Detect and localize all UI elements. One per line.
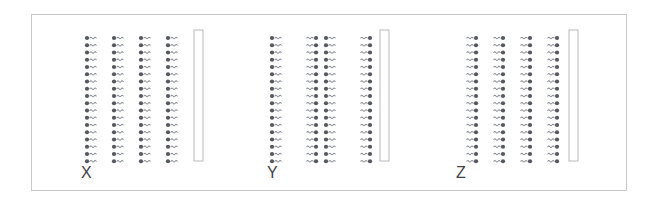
molecule-tail [275, 88, 281, 90]
molecule-head [85, 130, 89, 134]
molecule-tail [90, 37, 96, 39]
molecule-head [85, 94, 89, 98]
molecule-head [368, 50, 372, 54]
molecule-head [324, 130, 328, 134]
molecule-head [501, 65, 505, 69]
molecule-tail [117, 66, 123, 68]
molecule-tail [521, 74, 527, 76]
molecule-head [139, 43, 143, 47]
molecule-tail [548, 52, 554, 54]
molecule-head [85, 116, 89, 120]
molecule-tail [90, 124, 96, 126]
molecule-head [555, 65, 559, 69]
molecule-head [166, 152, 170, 156]
molecule-tail [329, 161, 335, 163]
molecule-head [528, 145, 532, 149]
molecule-head [166, 145, 170, 149]
molecule-tail [467, 139, 473, 141]
molecule-head [528, 130, 532, 134]
molecule-tail [361, 37, 367, 39]
molecule-head [474, 87, 478, 91]
molecule-head [324, 58, 328, 62]
molecule-tail [361, 95, 367, 97]
molecule-tail [329, 103, 335, 105]
molecule-tail [307, 52, 313, 54]
molecule-head [166, 43, 170, 47]
molecule-tail [494, 132, 500, 134]
molecule-head [314, 159, 318, 163]
molecule-head [555, 94, 559, 98]
molecule-tail [467, 124, 473, 126]
molecule-head [314, 72, 318, 76]
molecule-tail [275, 139, 281, 141]
molecule-tail [467, 103, 473, 105]
molecule-tail [307, 95, 313, 97]
molecule-tail [361, 81, 367, 83]
molecule-head [324, 94, 328, 98]
molecule-tail [275, 153, 281, 155]
molecule-head [528, 87, 532, 91]
molecule-tail [521, 132, 527, 134]
molecule-head [324, 101, 328, 105]
molecule-head [139, 65, 143, 69]
molecule-head [555, 130, 559, 134]
molecule-tail [329, 45, 335, 47]
molecule-head [555, 50, 559, 54]
molecule-tail [548, 66, 554, 68]
molecule-head [139, 79, 143, 83]
molecule-head [270, 108, 274, 112]
molecule-tail [467, 81, 473, 83]
molecule-tail [329, 59, 335, 61]
molecule-tail [171, 95, 177, 97]
molecule-tail [171, 146, 177, 148]
molecule-tail [275, 103, 281, 105]
molecule-head [501, 36, 505, 40]
molecule-head [474, 79, 478, 83]
molecule-tail [90, 81, 96, 83]
molecule-tail [521, 146, 527, 148]
molecule-head [166, 87, 170, 91]
molecule-tail [144, 95, 150, 97]
molecule-tail [117, 124, 123, 126]
molecule-head [555, 123, 559, 127]
molecule-tail [361, 139, 367, 141]
molecule-tail [171, 117, 177, 119]
molecule-head [85, 137, 89, 141]
molecule-tail [467, 95, 473, 97]
molecule-tail [90, 103, 96, 105]
molecule-tail [329, 117, 335, 119]
molecule-tail [171, 45, 177, 47]
molecule-head [474, 50, 478, 54]
molecule-tail [548, 139, 554, 141]
molecule-head [85, 43, 89, 47]
molecule-tail [144, 66, 150, 68]
molecule-tail [548, 161, 554, 163]
molecule-tail [494, 59, 500, 61]
molecule-tail [494, 88, 500, 90]
molecule-tail [90, 45, 96, 47]
molecule-tail [521, 110, 527, 112]
molecule-head [501, 130, 505, 134]
molecule-tail [521, 124, 527, 126]
molecule-tail [171, 161, 177, 163]
molecule-head [139, 50, 143, 54]
molecule-head [474, 152, 478, 156]
molecule-head [270, 145, 274, 149]
molecule-tail [144, 139, 150, 141]
molecule-head [555, 79, 559, 83]
molecule-head [501, 137, 505, 141]
molecule-tail [275, 45, 281, 47]
molecule-head [474, 72, 478, 76]
molecule-head [85, 108, 89, 112]
molecule-head [270, 159, 274, 163]
molecule-tail [307, 59, 313, 61]
molecule-tail [171, 81, 177, 83]
molecule-head [166, 137, 170, 141]
molecule-head [368, 72, 372, 76]
molecule-head [270, 137, 274, 141]
molecule-tail [275, 66, 281, 68]
molecule-tail [329, 132, 335, 134]
molecule-head [139, 108, 143, 112]
molecule-head [368, 108, 372, 112]
molecule-head [324, 152, 328, 156]
